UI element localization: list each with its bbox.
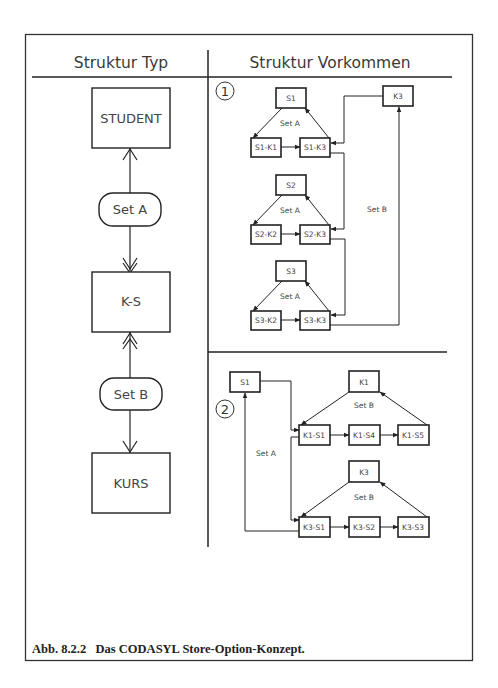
occ2-member-1-1: K1-S1	[303, 431, 325, 440]
occ2-owner-2: K3	[359, 468, 369, 477]
occ2-setlabel-1: Set B	[354, 401, 374, 410]
occ1-member-3-1: S3-K2	[255, 316, 277, 325]
occ2-member-2-1: K3-S1	[303, 523, 325, 532]
occ1-setlabel-3: Set A	[280, 292, 301, 301]
occ1-setlabel-1: Set A	[280, 119, 301, 128]
label-student: STUDENT	[100, 111, 162, 126]
occ2-member-2-3: K3-S3	[402, 523, 424, 532]
occ1-member-2-1: S2-K2	[255, 230, 277, 239]
figure: Struktur Typ Struktur Vorkommen STUDENT …	[0, 0, 498, 688]
header-left: Struktur Typ	[74, 54, 168, 72]
occ2-s-setlabel: Set A	[256, 449, 277, 458]
occ1-owner-1: S1	[286, 94, 296, 103]
occ1-member-1-2: S1-K3	[304, 143, 326, 152]
occ1-member-1-1: S1-K1	[255, 143, 277, 152]
figure-caption: Abb. 8.2.2 Das CODASYL Store-Option-Konz…	[32, 642, 305, 656]
occ2-setlabel-2: Set B	[354, 493, 374, 502]
label-set-a: Set A	[113, 202, 147, 217]
occ2-member-1-3: K1-S5	[402, 431, 424, 440]
occ1-member-2-2: S2-K3	[304, 230, 326, 239]
occ1-k-owner: K3	[393, 92, 403, 101]
occ1-setlabel-2: Set A	[280, 206, 301, 215]
occ1-owner-2: S2	[286, 181, 296, 190]
occ2-owner-1: K1	[359, 378, 369, 387]
label-set-b: Set B	[114, 387, 148, 402]
occ2-member-2-2: K3-S2	[353, 523, 375, 532]
occ1-k-setlabel: Set B	[367, 205, 387, 214]
marker-2: 2	[221, 402, 229, 417]
occ2-s-owner: S1	[240, 378, 250, 387]
label-ks: K-S	[121, 294, 141, 309]
occ1-owner-3: S3	[286, 267, 296, 276]
label-kurs: KURS	[114, 476, 149, 491]
occ2-member-1-2: K1-S4	[353, 431, 375, 440]
marker-1: 1	[221, 84, 229, 99]
occ1-member-3-2: S3-K3	[304, 316, 326, 325]
header-right: Struktur Vorkommen	[249, 54, 410, 72]
occurrence-1-diagram	[251, 86, 413, 330]
